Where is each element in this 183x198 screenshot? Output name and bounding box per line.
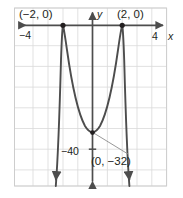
y-axis-label: y	[97, 9, 102, 20]
x-tick-label-4: 4	[152, 31, 158, 42]
label-root-right: (2, 0)	[117, 9, 144, 21]
point-vertex	[90, 130, 95, 135]
y-tick-label-neg40: −40	[61, 146, 79, 157]
vertex-leader-line	[95, 134, 129, 155]
x-axis-label: x	[168, 31, 173, 42]
point-root-right	[120, 23, 125, 28]
label-root-left: (−2, 0)	[19, 9, 53, 21]
label-vertex: (0, −32)	[91, 156, 131, 168]
graph-figure: (−2, 0) (2, 0) −4 4 x y −40 (0, −32)	[0, 0, 183, 198]
x-tick-label-neg4: −4	[19, 30, 31, 41]
point-root-left	[60, 23, 65, 28]
curve-arrow-left	[56, 172, 57, 180]
curve-arrow-right	[129, 172, 130, 180]
